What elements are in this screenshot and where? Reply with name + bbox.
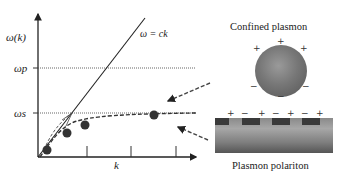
slab-charge: + [258,109,266,118]
data-point [150,111,159,120]
slab-charge: − [301,109,309,118]
charge-minus: − [250,82,258,91]
arrow-to-confined [168,83,210,101]
charge-minus: − [302,82,310,91]
data-point [81,121,90,130]
confined-plasmon-title: Confined plasmon [230,21,307,32]
charge-plus: + [277,37,285,46]
slab-charge: − [272,109,280,118]
charge-plus: + [253,44,261,53]
data-point [63,129,72,138]
charge-minus: − [277,92,285,101]
y-axis-label: ω(k) [6,31,26,43]
charge-plus: + [300,44,308,53]
slab-charge: + [227,109,235,118]
x-axis-label: k [114,159,119,171]
omega-s-label: ωs [14,107,26,119]
charge-band [302,118,320,125]
slab-charge: + [316,109,324,118]
slab-charge: + [287,109,295,118]
charge-band [242,118,260,125]
arrow-to-polariton [178,127,208,140]
data-point [43,146,52,155]
light-line-label: ω = ck [140,28,168,39]
omega-p-label: ωp [14,62,27,74]
light-line [38,18,145,157]
charge-band [272,118,290,125]
slab-charge: − [241,109,249,118]
plasmon-polariton-title: Plasmon polariton [232,160,309,171]
charge-band [215,118,229,125]
